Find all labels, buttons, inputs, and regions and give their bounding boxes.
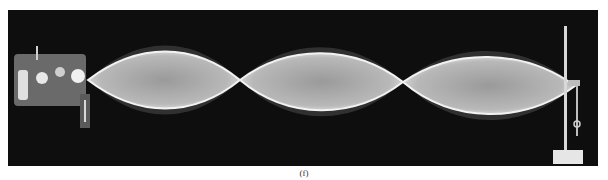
standing-wave-photo xyxy=(8,10,598,166)
figure-caption: (f) xyxy=(0,168,608,178)
standing-wave-illustration xyxy=(8,10,598,166)
vibrator-apparatus xyxy=(14,46,90,128)
